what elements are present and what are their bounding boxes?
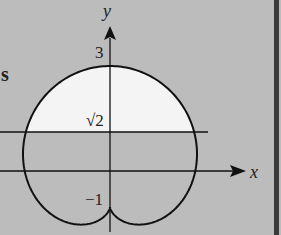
y-axis-arrow-icon xyxy=(104,26,116,40)
side-label: s xyxy=(1,63,9,85)
x-axis-label: x xyxy=(249,162,258,182)
tick-label-3: 3 xyxy=(95,43,104,62)
tick-label-sqrt2: √2 xyxy=(86,111,104,130)
cardioid-figure: s y x 3 √2 −1 xyxy=(0,0,281,235)
tick-label-neg1: −1 xyxy=(85,190,103,209)
y-axis-label: y xyxy=(101,1,111,21)
right-border xyxy=(274,0,279,235)
